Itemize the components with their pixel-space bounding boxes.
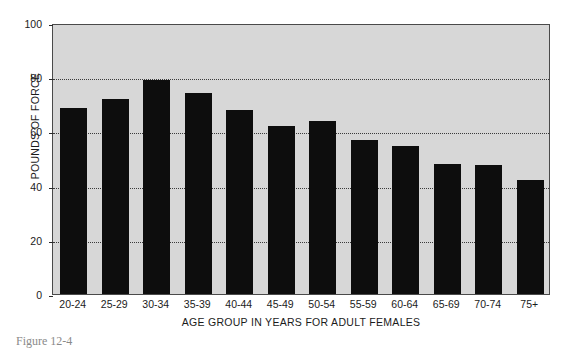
- y-tick-label: 20: [0, 235, 42, 247]
- x-axis-title: AGE GROUP IN YEARS FOR ADULT FEMALES: [52, 316, 550, 328]
- x-axis-tick-labels: 20-2425-2930-3435-3940-4445-4950-5455-59…: [52, 298, 550, 314]
- y-tick-label: 80: [0, 72, 42, 84]
- x-tick-label: 75+: [503, 298, 555, 310]
- bar: [143, 80, 170, 294]
- bar: [268, 126, 295, 294]
- y-tick-label: 100: [0, 18, 42, 30]
- bar: [517, 180, 544, 294]
- bar: [475, 165, 502, 294]
- bar: [60, 108, 87, 294]
- bar: [434, 164, 461, 294]
- bars-series: [53, 25, 549, 294]
- bar: [102, 99, 129, 294]
- figure-caption: Figure 12-4: [16, 334, 72, 349]
- y-axis-tick-labels: 020406080100: [0, 0, 48, 346]
- y-tick-label: 0: [0, 289, 42, 301]
- y-tick-label: 60: [0, 126, 42, 138]
- bar: [309, 121, 336, 294]
- bar: [185, 93, 212, 294]
- y-tick-label: 40: [0, 181, 42, 193]
- y-axis-tick-mark: [49, 296, 53, 297]
- bar: [392, 146, 419, 294]
- plot-area: [52, 24, 550, 295]
- bar: [226, 110, 253, 294]
- bar: [351, 140, 378, 294]
